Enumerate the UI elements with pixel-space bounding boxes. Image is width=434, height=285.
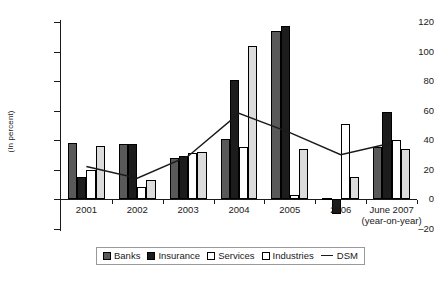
x-label-secondary: (year-on-year)	[358, 215, 425, 226]
legend-swatch-industries	[262, 252, 270, 260]
chart-legend: Banks Insurance Services Industries DSM	[96, 247, 365, 265]
y-axis-title: (In percent)	[2, 76, 18, 186]
x-label-june-2007: June 2007(year-on-year)	[358, 204, 425, 226]
legend-swatch-banks	[103, 252, 111, 260]
y-axis-title-text: (In percent)	[6, 110, 15, 152]
legend-label-insurance: Insurance	[158, 250, 200, 261]
legend-item-banks: Banks	[103, 250, 140, 261]
legend-label-dsm: DSM	[337, 250, 358, 261]
legend-item-insurance: Insurance	[147, 250, 200, 261]
legend-label-services: Services	[218, 250, 254, 261]
legend-label-industries: Industries	[273, 250, 314, 261]
x-label-primary: June 2007	[358, 204, 425, 215]
legend-swatch-services	[207, 252, 215, 260]
legend-label-banks: Banks	[114, 250, 140, 261]
legend-swatch-insurance	[147, 252, 155, 260]
legend-item-services: Services	[207, 250, 254, 261]
legend-item-dsm: DSM	[321, 250, 358, 261]
legend-item-industries: Industries	[262, 250, 314, 261]
legend-swatch-dsm	[321, 255, 333, 256]
dsm-line-series	[60, 22, 420, 229]
bar-chart: (In percent) 120100806040200–20 20012002…	[0, 0, 434, 285]
dsm-polyline	[86, 113, 391, 178]
